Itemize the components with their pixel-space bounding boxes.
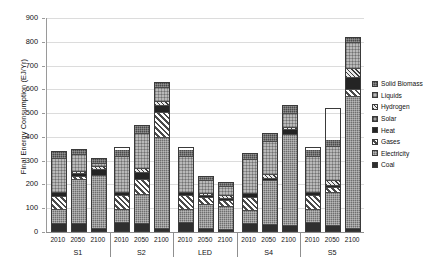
y-tick-label-400: 400 bbox=[26, 133, 38, 141]
segment-electricity bbox=[72, 180, 86, 224]
segment-electricity bbox=[263, 181, 277, 225]
x-tick-label-s5-2050: 2050 bbox=[321, 236, 343, 243]
legend-label: Coal bbox=[381, 161, 395, 168]
legend-swatch-icon bbox=[372, 116, 378, 122]
legend-label: Hydrogen bbox=[381, 103, 410, 110]
segment-liquids bbox=[263, 142, 277, 175]
segment-coal bbox=[72, 224, 86, 231]
group-label-s2: S2 bbox=[111, 248, 171, 257]
segment-solid-biomass bbox=[135, 126, 149, 134]
segment-gases bbox=[135, 180, 149, 194]
y-tick-label-500: 500 bbox=[26, 109, 38, 117]
legend-label: Gases bbox=[381, 138, 400, 145]
x-tick-label-s2-2100: 2100 bbox=[150, 236, 172, 243]
bar-s2-2050[interactable] bbox=[134, 125, 150, 232]
segment-gases bbox=[155, 113, 169, 138]
segment-electricity bbox=[179, 210, 193, 224]
bar-s2-2100[interactable] bbox=[154, 82, 170, 232]
bar-s4-2050[interactable] bbox=[262, 133, 278, 232]
segment-solid-biomass bbox=[243, 154, 257, 161]
bar-s5-2010[interactable] bbox=[305, 147, 321, 232]
y-tick-label-300: 300 bbox=[26, 157, 38, 165]
plot-area bbox=[46, 18, 364, 232]
segment-liquids bbox=[155, 88, 169, 102]
segment-electricity bbox=[243, 211, 257, 224]
segment-coal bbox=[52, 224, 66, 231]
x-tick-label-s2-2050: 2050 bbox=[130, 236, 152, 243]
x-tick-label-s4-2010: 2010 bbox=[238, 236, 260, 243]
segment-gases bbox=[306, 196, 320, 210]
bar-s1-2100[interactable] bbox=[91, 158, 107, 232]
legend-label: Solid Biomass bbox=[381, 80, 423, 87]
group-label-s4: S4 bbox=[239, 248, 299, 257]
group-label-s5: S5 bbox=[302, 248, 362, 257]
x-tick-label-led-2010: 2010 bbox=[174, 236, 196, 243]
legend-label: Liquids bbox=[381, 92, 402, 99]
y-tick-mark-0 bbox=[42, 232, 45, 233]
legend-swatch-icon bbox=[372, 150, 378, 156]
bar-series-container bbox=[47, 18, 364, 232]
legend-label: Heat bbox=[381, 127, 395, 134]
segment-electricity bbox=[92, 176, 106, 230]
y-tick-label-700: 700 bbox=[26, 62, 38, 70]
segment-solid-biomass bbox=[115, 150, 129, 157]
segment-coal bbox=[219, 230, 233, 231]
y-tick-label-800: 800 bbox=[26, 38, 38, 46]
segment-solid-biomass bbox=[283, 106, 297, 114]
y-tick-mark-100 bbox=[42, 208, 45, 209]
legend-item-coal[interactable]: Coal bbox=[372, 159, 442, 171]
bar-led-2010[interactable] bbox=[178, 147, 194, 232]
y-tick-label-0: 0 bbox=[34, 228, 38, 236]
segment-gases bbox=[199, 198, 213, 205]
legend-swatch-icon bbox=[372, 162, 378, 168]
legend-item-hydrogen[interactable]: Hydrogen bbox=[372, 101, 442, 113]
x-tick-label-led-2100: 2100 bbox=[214, 236, 236, 243]
segment-solid-biomass bbox=[179, 150, 193, 157]
segment-electricity bbox=[346, 97, 360, 229]
legend-swatch-icon bbox=[372, 92, 378, 98]
chart-legend: Solid BiomassLiquidsHydrogenSolarHeatGas… bbox=[372, 78, 442, 171]
x-tick-label-led-2050: 2050 bbox=[194, 236, 216, 243]
bar-s5-2050[interactable] bbox=[325, 108, 341, 232]
legend-item-heat[interactable]: Heat bbox=[372, 124, 442, 136]
segment-gases bbox=[346, 90, 360, 97]
segment-coal bbox=[263, 225, 277, 231]
segment-electricity bbox=[155, 138, 169, 229]
segment-solid-biomass bbox=[52, 152, 66, 159]
segment-coal bbox=[135, 224, 149, 231]
x-tick-label-s2-2010: 2010 bbox=[110, 236, 132, 243]
group-separator-4 bbox=[300, 233, 301, 257]
segment-liquids bbox=[306, 157, 320, 193]
group-separator-1 bbox=[110, 233, 111, 257]
y-tick-mark-700 bbox=[42, 66, 45, 67]
bar-led-2050[interactable] bbox=[198, 176, 214, 232]
segment-liquids bbox=[72, 155, 86, 172]
segment-coal bbox=[199, 229, 213, 231]
y-tick-mark-900 bbox=[42, 18, 45, 19]
bar-s1-2010[interactable] bbox=[51, 151, 67, 232]
legend-item-liquids[interactable]: Liquids bbox=[372, 90, 442, 102]
bar-s1-2050[interactable] bbox=[71, 149, 87, 232]
bar-led-2100[interactable] bbox=[218, 182, 234, 232]
legend-item-gases[interactable]: Gases bbox=[372, 136, 442, 148]
legend-label: Solar bbox=[381, 115, 396, 122]
legend-swatch-icon bbox=[372, 104, 378, 110]
bar-s2-2010[interactable] bbox=[114, 147, 130, 232]
group-separator-3 bbox=[237, 233, 238, 257]
legend-swatch-icon bbox=[372, 81, 378, 87]
x-tick-label-s4-2050: 2050 bbox=[258, 236, 280, 243]
bar-s4-2100[interactable] bbox=[282, 105, 298, 232]
segment-coal bbox=[283, 226, 297, 231]
segment-liquids bbox=[283, 114, 297, 128]
segment-electricity bbox=[52, 210, 66, 223]
legend-item-electricity[interactable]: Electricity bbox=[372, 148, 442, 160]
bar-s5-2100[interactable] bbox=[345, 37, 361, 232]
x-tick-label-s5-2010: 2010 bbox=[301, 236, 323, 243]
x-tick-label-s5-2100: 2100 bbox=[341, 236, 363, 243]
y-tick-mark-800 bbox=[42, 42, 45, 43]
legend-item-solar[interactable]: Solar bbox=[372, 113, 442, 125]
segment-electricity bbox=[306, 210, 320, 224]
bar-s4-2010[interactable] bbox=[242, 153, 258, 232]
legend-item-solid-biomass[interactable]: Solid Biomass bbox=[372, 78, 442, 90]
segment-liquids bbox=[135, 134, 149, 169]
